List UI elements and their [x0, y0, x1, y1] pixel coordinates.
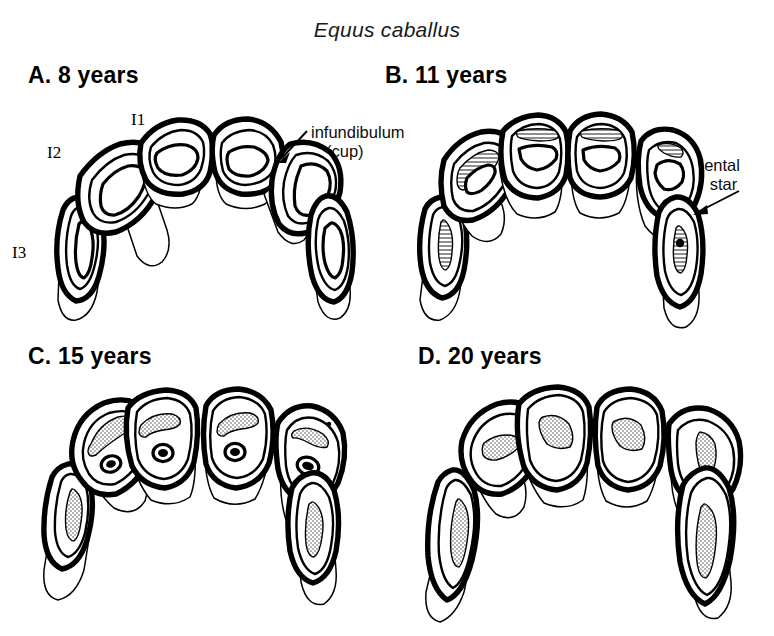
panel-b-tooth-right-i1 [568, 114, 634, 218]
panel-d-tooth-left-i3 [426, 470, 478, 622]
panel-c-tooth-right-i3 [288, 473, 339, 605]
panel-a-tooth-left-i1 [140, 120, 213, 208]
panel-c-tooth-right-i1 [204, 389, 274, 504]
panel-c-arch [44, 389, 345, 605]
panel-b-tooth-left-i1 [499, 115, 568, 218]
panel-d-tooth-right-i1 [595, 389, 664, 507]
panel-a-arch [57, 119, 353, 320]
panel-b-arch [420, 114, 739, 328]
panel-b-tooth-right-i3 [655, 197, 703, 328]
incisor-arch-artwork [0, 0, 774, 636]
figure-canvas: Equus caballus A. 8 years B. 11 years C.… [0, 0, 774, 636]
panel-d-tooth-right-i3 [678, 468, 734, 619]
panel-d-arch [426, 387, 741, 622]
panel-d-tooth-left-i1 [517, 387, 590, 507]
panel-a-tooth-right-i3 [308, 196, 353, 319]
